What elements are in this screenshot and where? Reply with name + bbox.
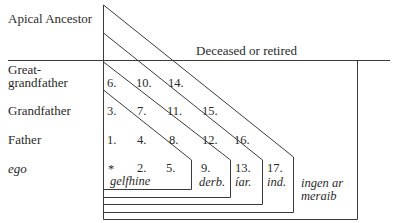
cell-7: 7. bbox=[137, 104, 146, 118]
cell-9: 9. bbox=[201, 161, 210, 175]
cell-13: 13. bbox=[235, 161, 251, 175]
cell-11: 11. bbox=[167, 104, 182, 118]
cell-16: 16. bbox=[234, 133, 250, 147]
label-grandfather: Grandfather bbox=[8, 104, 71, 118]
group-label-derbfhine: derb. bbox=[199, 175, 225, 189]
cell-17: 17. bbox=[267, 161, 283, 175]
cell-1: 1. bbox=[107, 133, 116, 147]
cell-10: 10. bbox=[136, 76, 152, 90]
group-label-ingen-ar-meraib-line2: meraib bbox=[301, 189, 336, 203]
group-label-ingen-ar-meraib-line1: ingen ar bbox=[301, 176, 343, 190]
cell-8: 8. bbox=[169, 133, 178, 147]
group-label-indfhine: ind. bbox=[267, 175, 286, 189]
label-father: Father bbox=[8, 133, 41, 147]
group-label-iarfhine: íar. bbox=[235, 175, 251, 189]
cell-4: 4. bbox=[137, 133, 146, 147]
group-label-gelfhine: gelfhine bbox=[110, 174, 150, 188]
label-apical-ancestor: Apical Ancestor bbox=[8, 12, 92, 26]
cell-3: 3. bbox=[107, 104, 116, 118]
cell-14: 14. bbox=[168, 76, 184, 90]
label-ego: ego bbox=[8, 162, 27, 176]
cell-6: 6. bbox=[107, 76, 116, 90]
cell-2: 2. bbox=[137, 161, 146, 175]
label-great-grandfather-line2: grandfather bbox=[8, 76, 68, 90]
cell-12: 12. bbox=[202, 133, 218, 147]
cell-15: 15. bbox=[202, 104, 218, 118]
label-deceased-or-retired: Deceased or retired bbox=[196, 44, 297, 58]
cell-5: 5. bbox=[166, 161, 175, 175]
